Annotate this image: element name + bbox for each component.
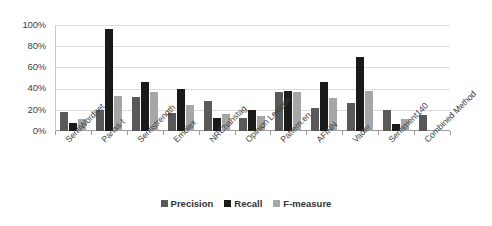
y-axis-tick-label: 40% [28,83,46,93]
bar-precision [204,101,212,131]
bar-fmeasure [222,114,230,131]
bar-precision [132,97,140,131]
y-axis-tick-label: 60% [28,62,46,72]
bar-group [127,25,163,131]
bar-recall [105,29,113,131]
bar-precision [347,103,355,131]
bar-group [235,25,271,131]
bar-fmeasure [114,96,122,131]
chart-legend: Precision Recall F-measure [0,198,492,209]
bar-precision [168,113,176,131]
bar-recall [356,57,364,131]
x-axis-tick [270,131,271,135]
legend-label: F-measure [283,198,331,209]
bar-fmeasure [186,105,194,132]
bar-precision [383,110,391,131]
bar-group [414,25,450,131]
bar-recall [213,118,221,131]
x-axis-tick [306,131,307,135]
bar-group [199,25,235,131]
bar-recall [320,82,328,131]
bar-group [91,25,127,131]
x-axis-tick [342,131,343,135]
bar-precision [311,108,319,131]
x-axis-tick [450,131,451,135]
x-axis-tick [127,131,128,135]
bar-recall [177,89,185,131]
legend-label: Recall [234,198,262,209]
y-axis-tick-label: 100% [23,20,47,30]
bar-chart: 100% 80% 60% 40% 20% 0% SentiWordnetPana… [0,0,492,226]
x-axis-tick [163,131,164,135]
bar-fmeasure [365,91,373,131]
x-axis-tick [55,131,56,135]
legend-swatch-icon [224,200,231,207]
bar-precision [239,118,247,131]
bar-group [378,25,414,131]
legend-swatch-icon [273,200,280,207]
bar-group [55,25,91,131]
legend-item-recall: Recall [224,198,262,209]
bar-fmeasure [257,116,265,131]
bar-precision [275,92,283,131]
legend-swatch-icon [161,200,168,207]
x-axis-tick [378,131,379,135]
bar-group [342,25,378,131]
bar-fmeasure [150,92,158,131]
x-axis-ticks [55,131,450,135]
y-axis-tick-label: 0% [33,126,46,136]
bar-fmeasure [329,98,337,131]
legend-item-fmeasure: F-measure [273,198,331,209]
bar-recall [141,82,149,131]
bar-groups [55,25,450,131]
bar-group [306,25,342,131]
plot-area [55,25,450,131]
x-axis-tick [235,131,236,135]
bar-group [163,25,199,131]
x-axis-tick [199,131,200,135]
bar-precision [419,115,427,131]
x-axis-tick [91,131,92,135]
bar-fmeasure [78,119,86,131]
bar-recall [69,123,77,131]
bar-recall [392,124,400,131]
bar-fmeasure [293,92,301,131]
bar-fmeasure [401,119,409,131]
x-axis-tick [414,131,415,135]
y-axis-tick-label: 80% [28,41,46,51]
legend-label: Precision [171,198,214,209]
bar-recall [284,91,292,131]
y-axis-labels: 100% 80% 60% 40% 20% 0% [0,0,52,226]
bar-recall [248,110,256,131]
y-axis-tick-label: 20% [28,105,46,115]
bar-precision [96,110,104,131]
bar-group [270,25,306,131]
bar-precision [60,112,68,131]
legend-item-precision: Precision [161,198,214,209]
